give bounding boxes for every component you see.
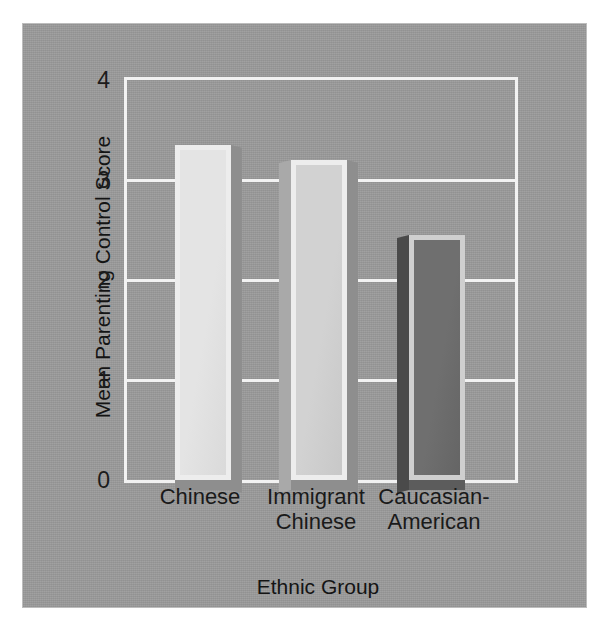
plot-frame	[124, 77, 518, 483]
x-tick-label: Caucasian- American	[349, 485, 519, 534]
bar	[175, 145, 231, 480]
y-tick-label: 2	[97, 269, 110, 292]
bar-front-face	[409, 235, 465, 480]
bar	[409, 235, 465, 480]
y-tick-label: 0	[97, 469, 110, 492]
bar-front-face	[291, 160, 347, 480]
bar-front-face	[175, 145, 231, 480]
bar-left-face	[397, 235, 409, 493]
bar-right-face	[347, 160, 358, 493]
chart-screenshot: { "chart_data": { "type": "bar", "title"…	[0, 0, 609, 632]
figure-panel: Mean Parenting Control Score 01234 Chine…	[22, 23, 587, 608]
y-tick-label: 1	[97, 369, 110, 392]
y-tick-label: 3	[97, 169, 110, 192]
y-axis-ticks: 01234	[22, 77, 124, 477]
x-axis-title: Ethnic Group	[124, 575, 512, 599]
bar-right-face	[231, 145, 242, 493]
bar-left-face	[279, 160, 291, 493]
bar	[291, 160, 347, 480]
y-tick-label: 4	[97, 69, 110, 92]
x-axis-ticks: ChineseImmigrant ChineseCaucasian- Ameri…	[124, 485, 512, 555]
plot-area	[127, 80, 515, 480]
